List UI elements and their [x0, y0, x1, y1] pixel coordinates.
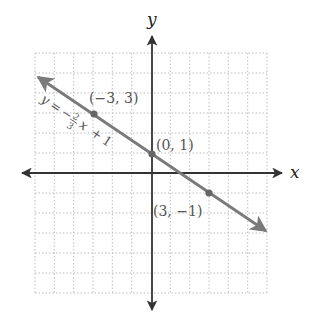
equation-x: x: [76, 117, 91, 134]
point-label-3-neg1: (3, −1): [153, 203, 202, 219]
point-label-0-1: (0, 1): [156, 137, 194, 153]
point-3-neg1: [205, 189, 212, 196]
coordinate-graph: y x (−3, 3) (0, 1) (3, −1) y = − 2 3 x +…: [0, 0, 313, 320]
y-axis-label: y: [146, 9, 157, 29]
point-label-neg3-3: (−3, 3): [89, 90, 138, 106]
point-neg3-3: [90, 110, 97, 117]
x-axis-label: x: [290, 162, 300, 182]
point-0-1: [148, 150, 155, 157]
